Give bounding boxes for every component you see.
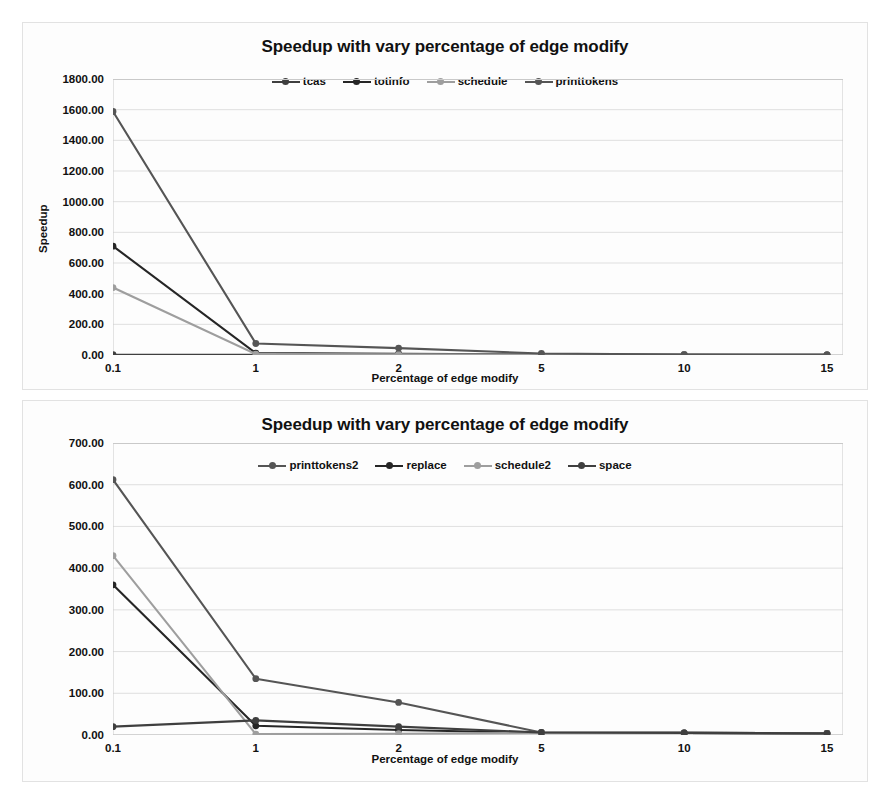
x-axis-label-bottom: Percentage of edge modify bbox=[23, 753, 867, 765]
y-axis-tick-label: 600.00 bbox=[69, 479, 104, 491]
data-point bbox=[681, 351, 688, 355]
y-axis-tick-label: 200.00 bbox=[69, 318, 104, 330]
data-point bbox=[538, 729, 545, 735]
data-point bbox=[252, 675, 259, 682]
y-axis-tick-label: 400.00 bbox=[69, 288, 104, 300]
y-axis-tick-label: 500.00 bbox=[69, 520, 104, 532]
y-axis-tick-label: 1000.00 bbox=[62, 196, 104, 208]
data-point bbox=[395, 723, 402, 730]
data-point bbox=[681, 730, 688, 735]
series-line bbox=[113, 112, 827, 355]
series-line bbox=[113, 556, 827, 735]
series-line bbox=[113, 480, 827, 734]
y-axis-tick-label: 1800.00 bbox=[62, 73, 104, 85]
series-schedule bbox=[113, 284, 830, 355]
y-axis-tick-label: 200.00 bbox=[69, 646, 104, 658]
plot-svg-top bbox=[113, 79, 843, 355]
chart-title-bottom: Speedup with vary percentage of edge mod… bbox=[23, 415, 867, 435]
plot-svg-bottom bbox=[113, 443, 843, 735]
y-axis-tick-label: 600.00 bbox=[69, 257, 104, 269]
figure-page: Speedup with vary percentage of edge mod… bbox=[0, 0, 891, 803]
y-axis-tick-label: 1200.00 bbox=[62, 165, 104, 177]
data-point bbox=[824, 730, 831, 735]
y-axis-tick-label: 0.00 bbox=[82, 349, 104, 361]
data-point bbox=[252, 340, 259, 347]
y-axis-tick-label: 1400.00 bbox=[62, 134, 104, 146]
y-axis-label-top: Speedup bbox=[37, 204, 49, 253]
x-axis-label-top: Percentage of edge modify bbox=[23, 372, 867, 384]
plot-area-bottom bbox=[113, 443, 843, 735]
data-point bbox=[395, 699, 402, 706]
series-printtokens2 bbox=[113, 476, 830, 735]
y-axis-tick-label: 400.00 bbox=[69, 562, 104, 574]
y-axis-tick-label: 100.00 bbox=[69, 687, 104, 699]
series-line bbox=[113, 288, 827, 355]
series-printtokens bbox=[113, 108, 830, 355]
data-point bbox=[113, 723, 116, 730]
data-point bbox=[538, 350, 545, 355]
y-axis-tick-label: 300.00 bbox=[69, 604, 104, 616]
chart-panel-bottom: Speedup with vary percentage of edge mod… bbox=[22, 400, 868, 782]
plot-area-top bbox=[113, 79, 843, 355]
series-line bbox=[113, 585, 827, 734]
y-axis-tick-label: 800.00 bbox=[69, 226, 104, 238]
chart-title-top: Speedup with vary percentage of edge mod… bbox=[23, 37, 867, 57]
y-axis-tick-label: 1600.00 bbox=[62, 104, 104, 116]
data-point bbox=[113, 351, 116, 355]
series-replace bbox=[113, 581, 830, 735]
y-axis-tick-label: 0.00 bbox=[82, 729, 104, 741]
data-point bbox=[824, 351, 831, 355]
series-schedule2 bbox=[113, 552, 830, 735]
data-point bbox=[113, 108, 116, 115]
y-axis-tick-label: 700.00 bbox=[69, 437, 104, 449]
chart-panel-top: Speedup with vary percentage of edge mod… bbox=[22, 22, 868, 390]
data-point bbox=[252, 717, 259, 724]
data-point bbox=[395, 345, 402, 352]
